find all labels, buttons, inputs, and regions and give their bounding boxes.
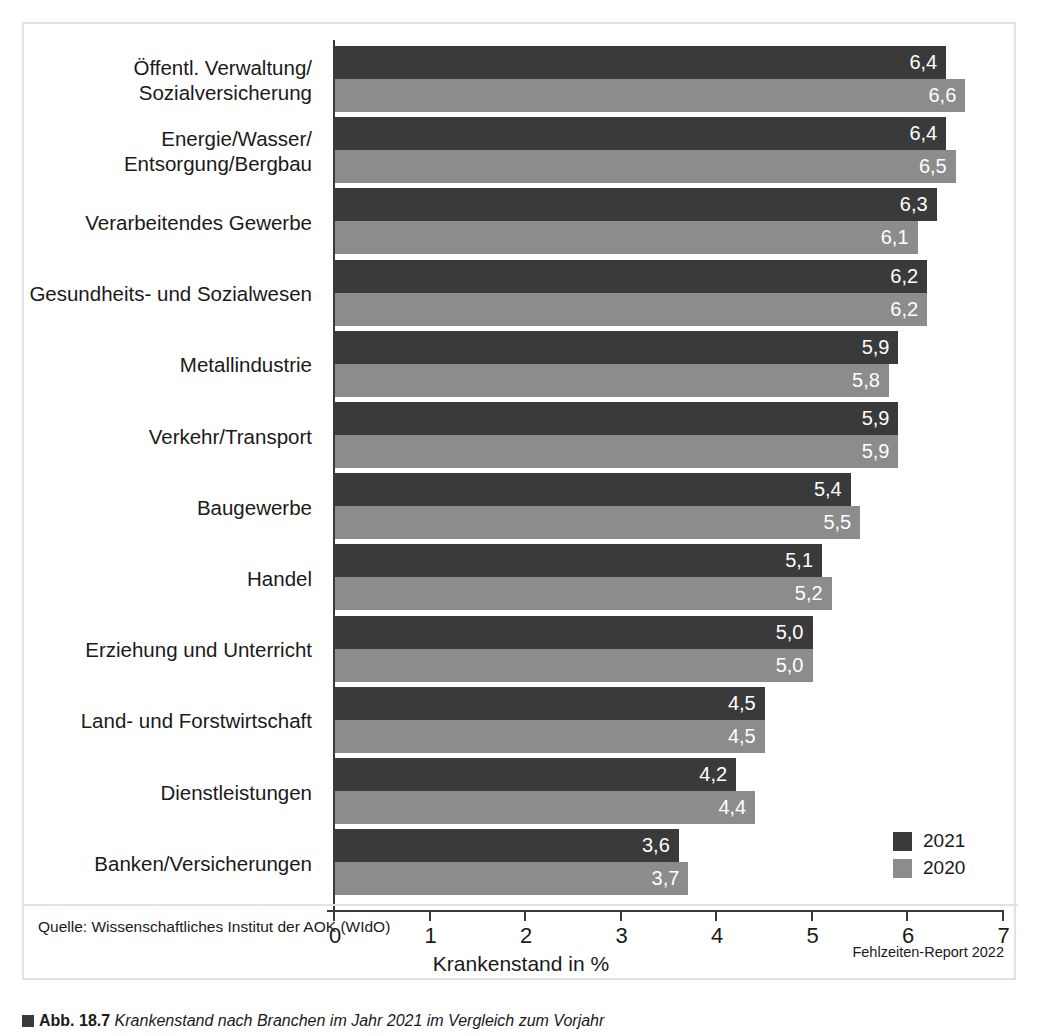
caption-square-icon [22,1015,34,1027]
figure-footer: Quelle: Wissenschaftliches Institut der … [24,904,1018,978]
bar-value-label: 6,6 [928,79,956,112]
report-note: Fehlzeiten-Report 2022 [852,944,1004,960]
bar-row[interactable]: 4,2 [335,758,736,791]
bar-row[interactable]: 6,6 [335,79,965,112]
bar-2020[interactable] [335,791,755,824]
bar-value-label: 5,0 [776,616,804,649]
bar-value-label: 4,5 [728,687,756,720]
bar-2021[interactable] [335,117,946,150]
bar-2020[interactable] [335,435,898,468]
chart-legend: 2021 2020 [893,830,1003,884]
bar-2020[interactable] [335,150,956,183]
source-note: Quelle: Wissenschaftliches Institut der … [38,918,390,936]
bar-value-label: 5,8 [852,364,880,397]
caption-text: Krankenstand nach Branchen im Jahr 2021 … [115,1012,605,1029]
bar-value-label: 4,4 [718,791,746,824]
bar-row[interactable]: 6,3 [335,188,937,221]
bar-value-label: 6,5 [919,150,947,183]
legend-label: 2020 [923,857,965,879]
figure-frame: Öffentl. Verwaltung/ Sozialversicherung6… [22,22,1016,980]
legend-swatch-2020-icon [893,859,912,878]
bar-row[interactable]: 5,4 [335,473,851,506]
caption-number: Abb. 18.7 [39,1012,110,1029]
category-label: Gesundheits- und Sozialwesen [22,281,312,306]
bar-row[interactable]: 5,0 [335,649,813,682]
bar-value-label: 5,0 [776,649,804,682]
bar-row[interactable]: 4,5 [335,720,765,753]
bar-2021[interactable] [335,402,898,435]
bar-value-label: 6,4 [909,117,937,150]
bar-2021[interactable] [335,829,679,862]
bar-2020[interactable] [335,720,765,753]
bar-row[interactable]: 5,8 [335,364,889,397]
bar-row[interactable]: 5,9 [335,331,898,364]
bar-2021[interactable] [335,260,927,293]
bar-value-label: 4,2 [699,758,727,791]
bar-row[interactable]: 4,4 [335,791,755,824]
legend-label: 2021 [923,830,965,852]
bar-value-label: 3,7 [652,862,680,895]
category-label: Handel [22,566,312,591]
bar-value-label: 6,1 [881,221,909,254]
category-label: Baugewerbe [22,495,312,520]
bar-2020[interactable] [335,577,832,610]
bar-2020[interactable] [335,862,688,895]
category-label: Verarbeitendes Gewerbe [22,210,312,235]
bar-row[interactable]: 6,2 [335,293,927,326]
bar-2021[interactable] [335,331,898,364]
bar-value-label: 6,3 [900,188,928,221]
category-label: Metallindustrie [22,352,312,377]
bar-row[interactable]: 5,0 [335,616,813,649]
bar-2021[interactable] [335,758,736,791]
bar-value-label: 6,4 [909,46,937,79]
bar-2020[interactable] [335,221,918,254]
category-label: Erziehung und Unterricht [22,637,312,662]
bar-row[interactable]: 5,5 [335,506,860,539]
bar-row[interactable]: 6,5 [335,150,956,183]
bar-row[interactable]: 3,7 [335,862,688,895]
bar-2021[interactable] [335,473,851,506]
bar-value-label: 5,9 [862,331,890,364]
bar-row[interactable]: 6,2 [335,260,927,293]
bar-2021[interactable] [335,616,813,649]
bar-2020[interactable] [335,79,965,112]
legend-item: 2020 [893,857,1003,879]
figure-caption: Abb. 18.7 Krankenstand nach Branchen im … [22,1012,1016,1030]
chart-plot-area: Öffentl. Verwaltung/ Sozialversicherung6… [24,24,1018,904]
bar-2020[interactable] [335,506,860,539]
bar-row[interactable]: 5,9 [335,402,898,435]
bar-value-label: 6,2 [890,293,918,326]
bar-2020[interactable] [335,293,927,326]
bar-2021[interactable] [335,46,946,79]
bar-row[interactable]: 6,4 [335,117,946,150]
bar-row[interactable]: 5,2 [335,577,832,610]
bar-2020[interactable] [335,649,813,682]
bar-value-label: 6,2 [890,260,918,293]
bar-value-label: 5,4 [814,473,842,506]
bar-value-label: 4,5 [728,720,756,753]
category-label: Öffentl. Verwaltung/ Sozialversicherung [22,55,312,105]
bar-row[interactable]: 6,4 [335,46,946,79]
category-label: Land- und Forstwirtschaft [22,708,312,733]
bar-2021[interactable] [335,544,822,577]
bar-value-label: 5,5 [823,506,851,539]
bar-2020[interactable] [335,364,889,397]
bar-row[interactable]: 6,1 [335,221,918,254]
category-label: Banken/Versicherungen [22,851,312,876]
bar-2021[interactable] [335,687,765,720]
bar-2021[interactable] [335,188,937,221]
category-label: Energie/Wasser/ Entsorgung/Bergbau [22,126,312,176]
bar-value-label: 5,9 [862,435,890,468]
bar-row[interactable]: 5,1 [335,544,822,577]
bar-value-label: 5,9 [862,402,890,435]
category-label: Dienstleistungen [22,780,312,805]
bar-row[interactable]: 3,6 [335,829,679,862]
bar-value-label: 5,2 [795,577,823,610]
bar-row[interactable]: 4,5 [335,687,765,720]
legend-swatch-2021-icon [893,832,912,851]
legend-item: 2021 [893,830,1003,852]
bar-value-label: 5,1 [785,544,813,577]
bar-row[interactable]: 5,9 [335,435,898,468]
category-label: Verkehr/Transport [22,424,312,449]
bar-value-label: 3,6 [642,829,670,862]
